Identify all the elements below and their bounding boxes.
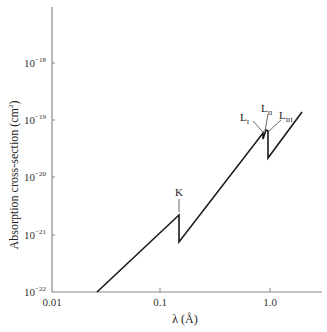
chart: 10−18 10−19 10−20 10−21 10−22 0.01 0.1 1… (0, 0, 327, 332)
x-tick-label-0: 0.01 (42, 296, 61, 308)
x-axis-title: λ (Å) (172, 312, 197, 326)
y-tick-label-21: 10−21 (24, 228, 46, 241)
l1-edge-pointer (253, 121, 263, 132)
absorption-curve (97, 112, 302, 292)
y-tick-label-19: 10−19 (24, 113, 46, 126)
x-tick-label-1: 0.1 (153, 296, 167, 308)
y-tick-label-18: 10−18 (24, 56, 46, 69)
x-tick-label-2: 1.0 (263, 296, 277, 308)
l1-edge-label: LI (240, 111, 250, 126)
y-tick-label-20: 10−20 (24, 170, 46, 183)
k-edge-label: K (175, 186, 183, 198)
l3-edge-pointer (268, 120, 281, 132)
l2-edge-label: LII (261, 102, 273, 117)
l3-edge-label: LIII (279, 109, 293, 124)
y-axis-title: Absorption cross-section (cm2) (7, 101, 21, 250)
